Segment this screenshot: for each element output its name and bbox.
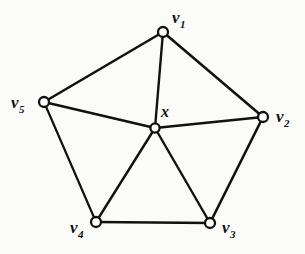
graph-node-v4	[91, 217, 101, 227]
graph-edge-v3-v4	[96, 222, 210, 223]
graph-edge-v5-v1	[44, 32, 163, 102]
graph-edge-v2-v3	[210, 117, 263, 223]
label-base-x: x	[161, 103, 169, 120]
label-subscript-v2: 2	[284, 117, 290, 129]
graph-edge-x-v4	[96, 128, 155, 222]
label-subscript-v4: 4	[78, 228, 84, 240]
graph-edge-x-v3	[155, 128, 210, 223]
graph-edge-v1-v2	[163, 32, 263, 117]
label-base-v1: v	[172, 8, 180, 27]
graph-node-v3	[205, 218, 215, 228]
graph-edge-x-v5	[44, 102, 155, 128]
graph-edge-x-v2	[155, 117, 263, 128]
graph-node-label-v1: v1	[172, 9, 186, 30]
graph-node-label-x: x	[161, 104, 169, 120]
label-base-v2: v	[276, 107, 284, 126]
graph-figure: v1v2v3v4v5x	[0, 0, 305, 254]
label-base-v5: v	[11, 93, 19, 112]
label-base-v3: v	[222, 218, 230, 237]
graph-edge-v4-v5	[44, 102, 96, 222]
graph-node-label-v5: v5	[11, 94, 25, 115]
label-subscript-v3: 3	[230, 228, 236, 240]
graph-node-label-v3: v3	[222, 219, 236, 240]
label-subscript-v1: 1	[180, 18, 186, 30]
label-subscript-v5: 5	[19, 103, 25, 115]
graph-node-x	[150, 123, 159, 132]
graph-node-v5	[39, 97, 49, 107]
graph-canvas	[0, 0, 305, 254]
graph-node-v1	[158, 27, 168, 37]
node-layer	[39, 27, 268, 228]
graph-node-label-v2: v2	[276, 108, 290, 129]
label-base-v4: v	[70, 218, 78, 237]
graph-node-v2	[258, 112, 268, 122]
graph-node-label-v4: v4	[70, 219, 84, 240]
